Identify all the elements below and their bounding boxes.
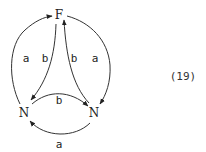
node-n-right: N	[89, 106, 100, 120]
edge-label-a-bottom: a	[56, 138, 63, 151]
edge-label-b-middle: b	[56, 94, 63, 107]
edge-n2-to-n1-a	[30, 121, 90, 134]
edge-label-b-left: b	[42, 52, 49, 65]
node-f: F	[55, 8, 63, 22]
edge-label-a-left: a	[23, 52, 30, 65]
edge-label-a-right: a	[92, 52, 99, 65]
equation-number: (19)	[170, 70, 197, 83]
node-n-left: N	[19, 106, 30, 120]
state-diagram: F N N a b b a b a (19)	[0, 0, 206, 152]
edge-label-b-right: b	[71, 52, 78, 65]
